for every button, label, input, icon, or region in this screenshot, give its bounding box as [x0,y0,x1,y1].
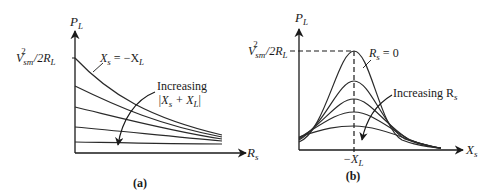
panel-a-annotation-line1: Increasing [157,79,207,93]
panel-a-x-axis-label: Rs [246,145,259,162]
panel-b-x-marker-label: −XL [343,152,363,168]
panel-b-annotation: Increasing Rs [393,86,458,102]
panel-a-y-axis-label: PL [69,14,83,31]
curve-b-3 [299,99,441,148]
panel-a: PL Vsm2/2RL Xs = −XL Increasing |Xs + XL… [16,14,259,190]
panel-b-increasing-arrow [362,95,392,140]
panel-b: PL Vsm2/2RL Rs = 0 Increasing Rs Xs −XL … [248,10,478,183]
curve-a-5 [75,142,222,144]
panel-b-caption: (b) [346,169,361,183]
panel-b-y-max-label: Vsm2/2RL [248,39,288,60]
panel-a-curve-label: Xs = −XL [99,51,144,67]
panel-a-annotation-line2: |Xs + XL| [158,93,201,109]
panel-a-caption: (a) [133,176,147,190]
panel-b-curve-label: Rs = 0 [368,46,399,62]
panel-b-x-axis-label: Xs [465,142,478,159]
panel-a-y-max-label: Vsm2/2RL [16,46,56,67]
figure: PL Vsm2/2RL Xs = −XL Increasing |Xs + XL… [0,0,500,195]
panel-b-y-axis-label: PL [294,10,308,27]
